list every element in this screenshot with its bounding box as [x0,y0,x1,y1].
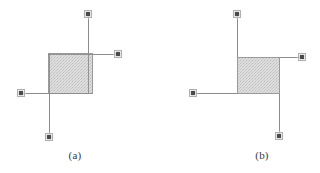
panel-a-square [49,54,93,94]
panel-a-node-left [19,91,23,95]
panel-a-node-right [116,52,120,56]
panel-b-square [238,58,280,94]
panel-b-node-top [235,12,239,16]
panel-b-caption: (b) [232,149,292,161]
figure-container: (a) (b) [0,0,320,173]
panel-b-node-right [300,55,304,59]
panel-a-node-bottom [47,135,51,139]
panel-a-caption: (a) [45,149,105,161]
panel-b-node-left [191,91,195,95]
panel-b-node-bottom [277,134,281,138]
panel-a-node-top [86,12,90,16]
figure-canvas [0,0,320,173]
